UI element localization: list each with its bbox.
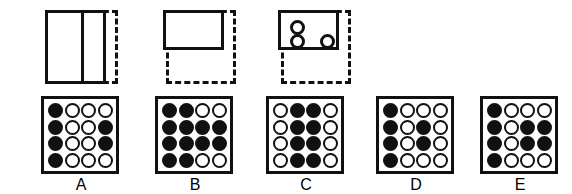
grid-cell — [503, 152, 520, 169]
option-a[interactable]: A — [41, 96, 121, 194]
open-circle-icon — [81, 120, 96, 135]
grid-cell — [97, 102, 114, 119]
open-circle-icon — [273, 120, 288, 135]
grid-cell — [195, 119, 212, 136]
grid-cell — [64, 152, 81, 169]
grid-cell — [47, 152, 64, 169]
options-row: A B C D E — [0, 96, 572, 194]
grid-cell — [161, 119, 178, 136]
grid-cell — [306, 152, 323, 169]
option-c[interactable]: C — [266, 96, 346, 194]
grid-cell — [272, 119, 289, 136]
option-c-label: C — [266, 175, 346, 194]
open-circle-icon — [520, 153, 535, 168]
filled-circle-icon — [306, 103, 321, 118]
filled-circle-icon — [383, 103, 398, 118]
grid-cell — [306, 102, 323, 119]
open-circle-icon — [323, 136, 338, 151]
option-d-grid[interactable] — [376, 96, 454, 174]
option-b[interactable]: B — [155, 96, 235, 194]
filled-circle-icon — [487, 103, 502, 118]
grid-cell — [178, 102, 195, 119]
option-e-label: E — [480, 175, 560, 194]
grid-cell — [536, 102, 553, 119]
option-e[interactable]: E — [480, 96, 560, 194]
filled-circle-icon — [306, 136, 321, 151]
open-circle-icon — [195, 153, 210, 168]
option-b-grid[interactable] — [155, 96, 233, 174]
filled-circle-icon — [195, 120, 210, 135]
filled-circle-icon — [383, 136, 398, 151]
filled-circle-icon — [537, 120, 552, 135]
open-circle-icon — [290, 34, 305, 49]
open-circle-icon — [323, 103, 338, 118]
grid-cell — [306, 119, 323, 136]
grid-cell — [416, 136, 433, 153]
option-d[interactable]: D — [376, 96, 456, 194]
grid-cell — [47, 136, 64, 153]
filled-circle-icon — [179, 103, 194, 118]
grid-cell — [81, 102, 98, 119]
grid-cell — [81, 152, 98, 169]
filled-circle-icon — [416, 120, 431, 135]
filled-circle-icon — [290, 103, 305, 118]
grid-cell — [211, 119, 228, 136]
solid-rectangle — [278, 10, 339, 50]
open-circle-icon — [433, 103, 448, 118]
option-a-grid[interactable] — [41, 96, 119, 174]
vertical-divider-line — [81, 12, 84, 82]
stimulus-figure-2 — [160, 8, 236, 86]
grid-cell — [432, 119, 449, 136]
stimulus-figure-3 — [275, 8, 351, 86]
open-circle-icon — [433, 136, 448, 151]
grid-cell — [399, 102, 416, 119]
filled-circle-icon — [487, 120, 502, 135]
open-circle-icon — [273, 103, 288, 118]
grid-cell — [416, 119, 433, 136]
grid-cell — [195, 152, 212, 169]
grid-cell — [322, 102, 339, 119]
open-circle-icon — [400, 103, 415, 118]
grid-cell — [503, 136, 520, 153]
grid-cell — [195, 136, 212, 153]
open-circle-icon — [504, 120, 519, 135]
grid-cell — [64, 119, 81, 136]
grid-cell — [382, 119, 399, 136]
open-circle-icon — [323, 120, 338, 135]
filled-circle-icon — [487, 136, 502, 151]
grid-cell — [503, 102, 520, 119]
open-circle-icon — [504, 153, 519, 168]
open-circle-icon — [400, 153, 415, 168]
grid-cell — [536, 152, 553, 169]
option-a-label: A — [41, 175, 121, 194]
open-circle-icon — [65, 136, 80, 151]
open-circle-icon — [416, 153, 431, 168]
filled-circle-icon — [520, 136, 535, 151]
filled-circle-icon — [416, 136, 431, 151]
open-circle-icon — [273, 153, 288, 168]
filled-circle-icon — [48, 120, 63, 135]
open-circle-icon — [433, 120, 448, 135]
filled-circle-icon — [306, 153, 321, 168]
filled-circle-icon — [487, 153, 502, 168]
grid-cell — [416, 102, 433, 119]
grid-cell — [520, 119, 537, 136]
puzzle-stage: A B C D E — [0, 0, 572, 194]
grid-cell — [399, 152, 416, 169]
grid-cell — [272, 102, 289, 119]
grid-cell — [272, 152, 289, 169]
open-circle-icon — [323, 153, 338, 168]
option-d-label: D — [376, 175, 456, 194]
grid-cell — [399, 136, 416, 153]
option-c-grid[interactable] — [266, 96, 344, 174]
grid-cell — [178, 119, 195, 136]
grid-cell — [195, 102, 212, 119]
grid-cell — [520, 152, 537, 169]
open-circle-icon — [400, 136, 415, 151]
open-circle-icon — [212, 153, 227, 168]
filled-circle-icon — [162, 136, 177, 151]
option-e-grid[interactable] — [480, 96, 558, 174]
grid-cell — [322, 152, 339, 169]
filled-circle-icon — [48, 153, 63, 168]
grid-cell — [178, 152, 195, 169]
